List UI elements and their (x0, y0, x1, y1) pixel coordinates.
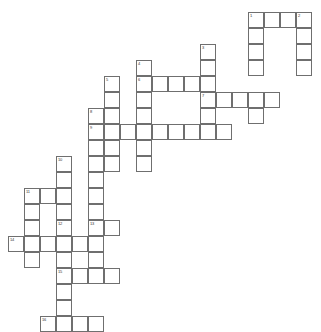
crossword-cell[interactable] (136, 140, 152, 156)
crossword-cell[interactable] (200, 60, 216, 76)
crossword-cell[interactable] (296, 44, 312, 60)
crossword-cell[interactable] (264, 92, 280, 108)
crossword-cell[interactable] (248, 60, 264, 76)
crossword-cell[interactable] (296, 60, 312, 76)
cell-number: 1 (250, 13, 252, 18)
crossword-cell[interactable] (88, 252, 104, 268)
crossword-cell-numbered[interactable]: 9 (88, 124, 104, 140)
crossword-cell[interactable] (56, 300, 72, 316)
crossword-cell-numbered[interactable]: 8 (88, 108, 104, 124)
crossword-cell[interactable] (88, 268, 104, 284)
crossword-cell[interactable] (88, 316, 104, 332)
cell-number: 6 (138, 77, 140, 82)
crossword-cell[interactable] (24, 220, 40, 236)
crossword-cell[interactable] (56, 284, 72, 300)
cell-number: 16 (42, 317, 46, 322)
crossword-cell[interactable] (136, 156, 152, 172)
crossword-cell[interactable] (216, 124, 232, 140)
cell-number: 5 (106, 77, 108, 82)
crossword-cell[interactable] (280, 12, 296, 28)
crossword-cell[interactable] (104, 108, 120, 124)
crossword-cell[interactable] (136, 108, 152, 124)
crossword-cell-numbered[interactable]: 13 (88, 220, 104, 236)
crossword-cell[interactable] (88, 188, 104, 204)
cell-number: 14 (10, 237, 14, 242)
crossword-cell[interactable] (88, 140, 104, 156)
crossword-cell[interactable] (248, 28, 264, 44)
cell-number: 3 (202, 45, 204, 50)
crossword-cell[interactable] (56, 204, 72, 220)
crossword-cell-numbered[interactable]: 4 (136, 60, 152, 76)
crossword-cell-numbered[interactable]: 11 (24, 188, 40, 204)
crossword-cell-numbered[interactable]: 5 (104, 76, 120, 92)
crossword-cell[interactable] (56, 188, 72, 204)
crossword-cell[interactable] (104, 92, 120, 108)
crossword-cell[interactable] (296, 28, 312, 44)
crossword-cell[interactable] (248, 108, 264, 124)
crossword-cell[interactable] (56, 172, 72, 188)
crossword-cell-numbered[interactable]: 10 (56, 156, 72, 172)
cell-number: 7 (202, 93, 204, 98)
cell-number: 13 (90, 221, 94, 226)
crossword-cell[interactable] (232, 92, 248, 108)
crossword-cell-numbered[interactable]: 16 (40, 316, 56, 332)
crossword-cell[interactable] (136, 124, 152, 140)
crossword-cell[interactable] (104, 156, 120, 172)
cell-number: 4 (138, 61, 140, 66)
crossword-cell[interactable] (200, 76, 216, 92)
crossword-cell[interactable] (136, 92, 152, 108)
cell-number: 11 (26, 189, 30, 194)
crossword-cell[interactable] (40, 236, 56, 252)
crossword-cell-numbered[interactable]: 7 (200, 92, 216, 108)
crossword-cell[interactable] (72, 236, 88, 252)
crossword-cell[interactable] (24, 252, 40, 268)
crossword-cell[interactable] (200, 108, 216, 124)
crossword-cell[interactable] (40, 188, 56, 204)
crossword-cell[interactable] (104, 268, 120, 284)
crossword-cell[interactable] (248, 92, 264, 108)
crossword-cell[interactable] (120, 124, 136, 140)
cell-number: 12 (58, 221, 62, 226)
crossword-cell[interactable] (24, 204, 40, 220)
cell-number: 10 (58, 157, 62, 162)
crossword-cell[interactable] (248, 44, 264, 60)
crossword-cell[interactable] (88, 156, 104, 172)
crossword-cell[interactable] (56, 252, 72, 268)
crossword-cell[interactable] (200, 124, 216, 140)
crossword-cell[interactable] (72, 316, 88, 332)
crossword-cell-numbered[interactable]: 2 (296, 12, 312, 28)
crossword-cell[interactable] (72, 268, 88, 284)
cell-number: 8 (90, 109, 92, 114)
cell-number: 15 (58, 269, 62, 274)
crossword-cell-numbered[interactable]: 1 (248, 12, 264, 28)
cell-number: 9 (90, 125, 92, 130)
crossword-cell[interactable] (104, 140, 120, 156)
crossword-cell-numbered[interactable]: 14 (8, 236, 24, 252)
crossword-cell-numbered[interactable]: 15 (56, 268, 72, 284)
crossword-cell[interactable] (184, 124, 200, 140)
crossword-cell[interactable] (24, 236, 40, 252)
crossword-cell[interactable] (152, 124, 168, 140)
cell-number: 2 (298, 13, 300, 18)
crossword-cell-numbered[interactable]: 3 (200, 44, 216, 60)
crossword-cell[interactable] (56, 316, 72, 332)
crossword-cell[interactable] (152, 76, 168, 92)
crossword-cell[interactable] (184, 76, 200, 92)
crossword-cell[interactable] (264, 12, 280, 28)
crossword-cell[interactable] (216, 92, 232, 108)
crossword-cell[interactable] (104, 124, 120, 140)
crossword-cell[interactable] (104, 220, 120, 236)
crossword-cell[interactable] (56, 236, 72, 252)
crossword-cell[interactable] (168, 76, 184, 92)
crossword-cell[interactable] (168, 124, 184, 140)
crossword-cell[interactable] (88, 172, 104, 188)
crossword-cell-numbered[interactable]: 12 (56, 220, 72, 236)
crossword-cell[interactable] (88, 236, 104, 252)
crossword-cell-numbered[interactable]: 6 (136, 76, 152, 92)
crossword-cell[interactable] (88, 204, 104, 220)
